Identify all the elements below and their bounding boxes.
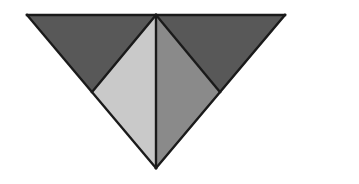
triangle-figure xyxy=(0,0,359,184)
figure-canvas xyxy=(0,0,359,184)
